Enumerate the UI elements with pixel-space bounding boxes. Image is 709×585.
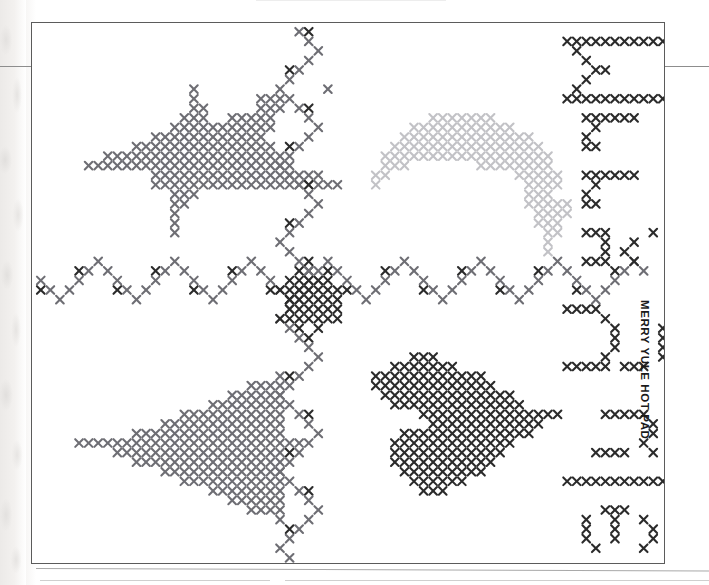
rule-top: [256, 0, 446, 1]
page-title: MERRY YULE HOT PAD: [639, 300, 651, 439]
cross-stitch-grid: [32, 23, 664, 563]
rule-bottom-primary: [36, 568, 709, 572]
page-edge-texture: [0, 0, 26, 585]
cross-stitch-chart-frame: [31, 22, 665, 564]
rule-bottom-left: [40, 580, 270, 581]
rule-bottom-right: [285, 580, 709, 581]
rule-right: [664, 66, 709, 67]
